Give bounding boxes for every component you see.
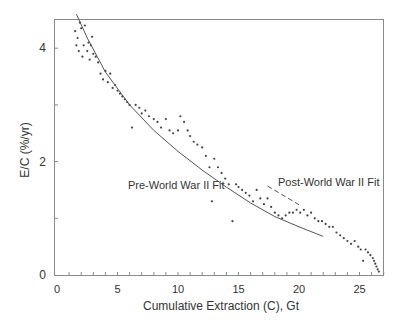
axis-labels: Cumulative Extraction (C), Gt E/C (%/yr) [18, 122, 300, 313]
pre-war-fit-line [76, 14, 323, 236]
y-tick-label: 2 [39, 155, 46, 169]
chart: 0510152025 024 Cumulative Extraction (C)… [0, 0, 404, 326]
y-axis-ticks: 024 [39, 41, 58, 282]
pre-war-fit-label: Pre-World War II Fit [128, 179, 225, 191]
x-tick-label: 25 [353, 283, 365, 295]
y-tick-label: 4 [39, 41, 46, 55]
x-tick-label: 15 [232, 283, 244, 295]
fit-annotations: Pre-World War II Fit Post-World War II F… [128, 176, 379, 191]
x-tick-label: 5 [114, 283, 120, 295]
scatter-points [74, 22, 380, 273]
post-war-fit-line [268, 186, 300, 205]
y-tick-label: 0 [39, 268, 46, 282]
x-axis-label: Cumulative Extraction (C), Gt [143, 299, 300, 313]
y-axis-label: E/C (%/yr) [18, 122, 32, 177]
x-tick-label: 0 [54, 283, 60, 295]
data-series [74, 14, 380, 272]
x-tick-label: 10 [172, 283, 184, 295]
plot-frame [55, 20, 384, 276]
post-war-fit-label: Post-World War II Fit [278, 176, 379, 188]
x-tick-label: 20 [293, 283, 305, 295]
